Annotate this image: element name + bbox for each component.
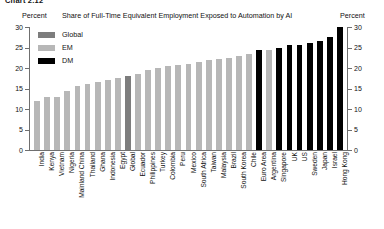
bar-malaysia: [216, 59, 222, 150]
x-label-global: Global: [130, 152, 137, 171]
x-label-ghana: Ghana: [100, 152, 107, 172]
x-label-taiwan: Taiwan: [211, 152, 218, 173]
x-label-nigeria: Nigeria: [69, 152, 76, 173]
x-label-peru: Peru: [180, 152, 187, 166]
y-tick-mark: [348, 48, 352, 49]
x-label-malaysia: Malaysia: [221, 152, 228, 178]
y-tick-mark: [348, 89, 352, 90]
x-label-ecuador: Ecuador: [140, 152, 147, 177]
bar-japan: [317, 41, 323, 150]
x-label-south-africa: South Africa: [201, 152, 208, 188]
bar-mainland-china: [75, 86, 81, 150]
bar-nigeria: [64, 91, 70, 150]
right-axis-unit-label: Percent: [340, 11, 365, 20]
bar-hong-kong: [337, 27, 343, 150]
y-tick-label: 20: [354, 65, 362, 72]
bar-series: [32, 27, 345, 150]
chart-title: Share of Full-Time Equivalent Employment…: [62, 11, 292, 20]
y-tick-label: 10: [15, 106, 23, 113]
y-tick-mark: [25, 109, 29, 110]
y-tick-mark: [348, 130, 352, 131]
bar-us: [297, 45, 303, 150]
y-tick-label: 0: [19, 147, 23, 154]
x-label-colombia: Colombia: [170, 152, 177, 180]
bar-kenya: [44, 97, 50, 150]
bar-global: [125, 76, 131, 150]
x-label-hong-kong: Hong Kong: [342, 152, 349, 185]
bar-south-africa: [196, 62, 202, 150]
bar-india: [34, 101, 40, 150]
bar-indonesia: [105, 80, 111, 150]
legend-label-em: EM: [62, 43, 73, 52]
y-tick-label: 10: [354, 106, 362, 113]
bar-ecuador: [135, 74, 141, 150]
y-tick-label: 25: [354, 44, 362, 51]
x-label-mainland-china: Mainland China: [79, 152, 86, 198]
bar-chile: [246, 54, 252, 150]
legend-label-global: Global: [62, 30, 83, 39]
x-label-argentina: Argentina: [271, 152, 278, 180]
x-label-kenya: Kenya: [49, 152, 56, 171]
bar-colombia: [165, 66, 171, 150]
bar-peru: [175, 65, 181, 150]
x-label-egypt: Egypt: [120, 152, 127, 169]
x-axis: [29, 150, 348, 151]
y-tick-label: 5: [19, 126, 23, 133]
bar-uk: [287, 45, 293, 150]
y-tick-mark: [348, 150, 352, 151]
y-tick-mark: [25, 27, 29, 28]
bar-brazil: [226, 58, 232, 150]
x-label-us: US: [302, 152, 309, 161]
y-tick-label: 0: [354, 147, 358, 154]
y-tick-label: 25: [15, 44, 23, 51]
y-tick-label: 5: [354, 126, 358, 133]
bar-mexico: [186, 64, 192, 150]
x-label-mexico: Mexico: [191, 152, 198, 173]
bar-sweden: [307, 43, 313, 150]
y-tick-mark: [25, 130, 29, 131]
y-tick-label: 30: [354, 24, 362, 31]
y-tick-mark: [348, 27, 352, 28]
y-axis-left: [29, 27, 30, 151]
x-label-vietnam: Vietnam: [59, 152, 66, 176]
bar-philippines: [145, 70, 151, 150]
legend-swatch-dm-icon: [38, 58, 55, 64]
x-label-india: India: [39, 152, 46, 166]
y-tick-mark: [25, 150, 29, 151]
x-label-indonesia: Indonesia: [110, 152, 117, 181]
bar-euro-area: [256, 50, 262, 150]
x-label-chile: Chile: [251, 152, 258, 167]
x-label-turkey: Turkey: [160, 152, 167, 172]
legend-swatch-global-icon: [38, 32, 55, 38]
bar-israel: [327, 37, 333, 150]
bar-ghana: [95, 82, 101, 150]
bar-singapore: [276, 48, 282, 151]
y-tick-mark: [348, 109, 352, 110]
bar-egypt: [115, 78, 121, 150]
y-tick-mark: [348, 68, 352, 69]
y-tick-label: 30: [15, 24, 23, 31]
y-tick-label: 20: [15, 65, 23, 72]
x-label-israel: Israel: [332, 152, 339, 168]
x-axis-category-labels: IndiaKenyaVietnamNigeriaMainland ChinaTh…: [32, 152, 345, 222]
y-tick-label: 15: [15, 85, 23, 92]
y-tick-mark: [25, 48, 29, 49]
y-tick-mark: [25, 89, 29, 90]
left-axis-unit-label: Percent: [22, 11, 47, 20]
y-tick-label: 15: [354, 85, 362, 92]
legend-label-dm: DM: [62, 56, 73, 65]
x-label-japan: Japan: [322, 152, 329, 170]
chart-container: Chart 2.12 Percent Share of Full-Time Eq…: [0, 0, 384, 229]
x-label-uk: UK: [292, 152, 299, 161]
x-label-sweden: Sweden: [312, 152, 319, 176]
chart-number-label: Chart 2.12: [5, 0, 43, 5]
x-label-philippines: Philippines: [150, 152, 157, 184]
bar-argentina: [266, 50, 272, 150]
y-tick-mark: [25, 68, 29, 69]
x-label-singapore: Singapore: [281, 152, 288, 182]
x-label-brazil: Brazil: [231, 152, 238, 169]
bar-turkey: [155, 68, 161, 150]
x-label-thailand: Thailand: [90, 152, 97, 177]
plot-area: 005510101515202025253030: [32, 27, 345, 150]
bar-south-korea: [236, 56, 242, 150]
